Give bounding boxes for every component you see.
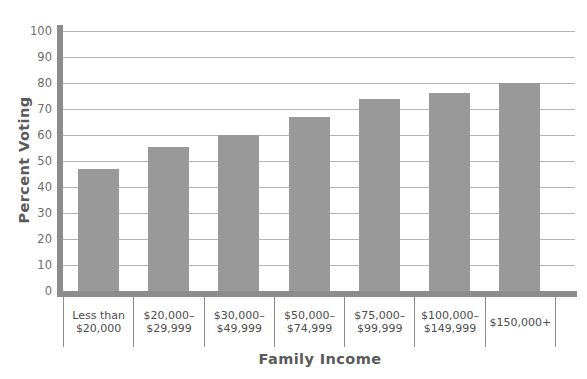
bar	[78, 169, 119, 291]
bar	[359, 99, 400, 291]
category-label-cell: $100,000– $149,999	[414, 297, 484, 347]
category-label-table: Less than $20,000$20,000– $29,999$30,000…	[63, 297, 556, 347]
y-axis-tick-label: 90	[8, 50, 52, 64]
category-label-cell: $50,000– $74,999	[274, 297, 344, 347]
y-axis-tick-label: 40	[8, 180, 52, 194]
gridline	[63, 57, 575, 58]
y-axis-tick-label: 30	[8, 206, 52, 220]
y-axis-tick-label: 100	[8, 24, 52, 38]
category-label-cell: $30,000– $49,999	[204, 297, 274, 347]
category-label-cell: $75,000– $99,999	[344, 297, 414, 347]
gridline	[63, 31, 575, 32]
category-label-cell: Less than $20,000	[63, 297, 133, 347]
y-axis-tick-label: 80	[8, 76, 52, 90]
bar	[499, 83, 540, 291]
y-axis-tick-label: 20	[8, 232, 52, 246]
bar-chart: Percent Voting 0102030405060708090100 Le…	[0, 0, 587, 379]
bar	[218, 135, 259, 291]
y-axis-tick-label: 50	[8, 154, 52, 168]
category-label-cell: $20,000– $29,999	[133, 297, 203, 347]
y-axis-line	[57, 25, 63, 297]
x-axis-title: Family Income	[63, 351, 577, 367]
y-axis-tick-label: 0	[8, 284, 52, 298]
y-axis-tick-label: 60	[8, 128, 52, 142]
bar	[148, 147, 189, 291]
y-axis-tick-label: 70	[8, 102, 52, 116]
bar	[289, 117, 330, 291]
bar	[429, 93, 470, 291]
category-label-cell: $150,000+	[485, 297, 555, 347]
y-axis-tick-label: 10	[8, 258, 52, 272]
